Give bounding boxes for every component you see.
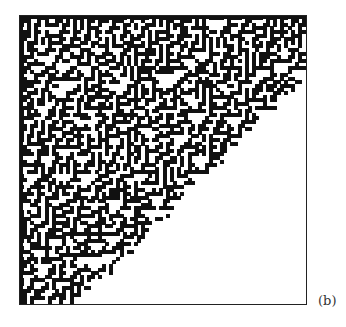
panel-label: (b)	[318, 293, 336, 308]
cellular-automaton-pattern	[20, 16, 306, 304]
figure-frame	[19, 15, 307, 305]
